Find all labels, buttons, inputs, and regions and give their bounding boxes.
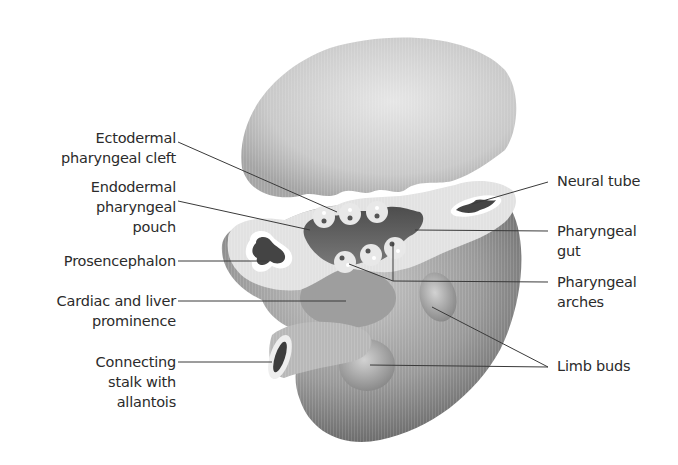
label-line: gut bbox=[557, 241, 637, 261]
label-pharyngeal-arches: Pharyngeal arches bbox=[557, 272, 637, 312]
label-prosencephalon: Prosencephalon bbox=[64, 251, 176, 271]
label-line: Connecting bbox=[96, 352, 176, 372]
label-line: stalk with bbox=[96, 372, 176, 392]
label-line: Pharyngeal bbox=[557, 272, 637, 292]
embryo-diagram: Ectodermal pharyngeal cleft Endodermal p… bbox=[0, 0, 678, 465]
label-line: Ectodermal bbox=[61, 128, 176, 148]
head-cap bbox=[241, 38, 516, 198]
label-line: Neural tube bbox=[557, 171, 640, 191]
label-connecting-stalk-with-allantois: Connecting stalk with allantois bbox=[96, 352, 176, 412]
label-endodermal-pharyngeal-pouch: Endodermal pharyngeal pouch bbox=[91, 177, 176, 237]
label-line: Cardiac and liver bbox=[57, 291, 176, 311]
label-line: pharyngeal bbox=[91, 197, 176, 217]
label-line: prominence bbox=[57, 311, 176, 331]
label-pharyngeal-gut: Pharyngeal gut bbox=[557, 221, 637, 261]
label-line: pouch bbox=[91, 217, 176, 237]
label-line: Limb buds bbox=[557, 356, 630, 376]
label-line: allantois bbox=[96, 392, 176, 412]
label-line: Pharyngeal bbox=[557, 221, 637, 241]
label-line: pharyngeal cleft bbox=[61, 148, 176, 168]
label-line: Endodermal bbox=[91, 177, 176, 197]
label-limb-buds: Limb buds bbox=[557, 356, 630, 376]
label-ectodermal-pharyngeal-cleft: Ectodermal pharyngeal cleft bbox=[61, 128, 176, 168]
label-line: arches bbox=[557, 292, 637, 312]
label-cardiac-and-liver-prominence: Cardiac and liver prominence bbox=[57, 291, 176, 331]
label-neural-tube: Neural tube bbox=[557, 171, 640, 191]
label-line: Prosencephalon bbox=[64, 251, 176, 271]
